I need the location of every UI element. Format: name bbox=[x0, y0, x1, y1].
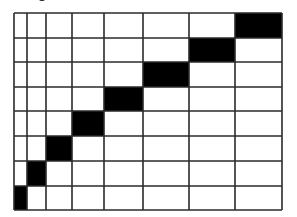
diagram-canvas bbox=[0, 0, 297, 217]
filled-cell bbox=[14, 186, 27, 210]
filled-cell bbox=[27, 161, 46, 186]
filled-cell bbox=[189, 38, 235, 62]
filled-cell bbox=[235, 13, 282, 38]
filled-cell bbox=[104, 87, 143, 111]
staircase-grid bbox=[0, 0, 297, 217]
filled-cell bbox=[46, 136, 72, 161]
filled-cell bbox=[72, 111, 104, 136]
filled-cell bbox=[143, 62, 189, 87]
grid-lines bbox=[14, 13, 282, 210]
